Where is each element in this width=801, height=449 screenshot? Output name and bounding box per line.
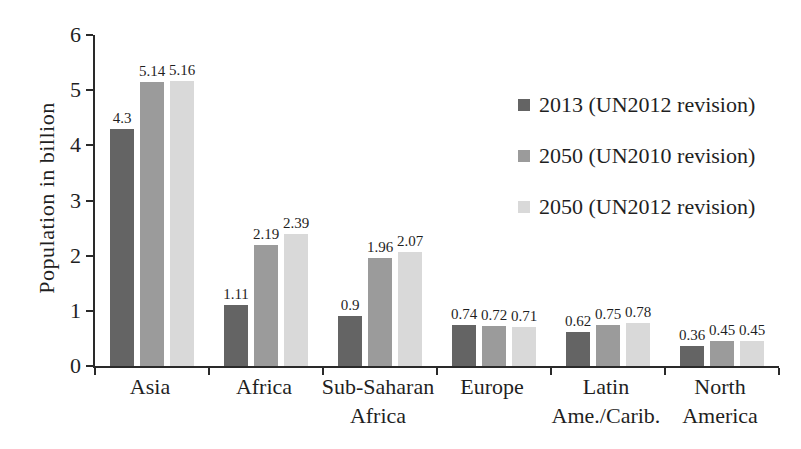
y-tick-label: 2 bbox=[37, 244, 81, 268]
bar bbox=[740, 341, 764, 366]
y-tick-label: 3 bbox=[37, 189, 81, 213]
legend-label: 2013 (UN2012 revision) bbox=[539, 92, 755, 118]
bar-value-label: 0.78 bbox=[608, 304, 668, 321]
category-label: Sub-Saharan Africa bbox=[321, 372, 435, 430]
legend-item: 2013 (UN2012 revision) bbox=[518, 93, 755, 117]
y-axis-tick bbox=[86, 365, 93, 367]
bar bbox=[710, 341, 734, 366]
legend-swatch bbox=[518, 150, 530, 162]
category-label: Africa bbox=[207, 372, 321, 401]
y-tick-label: 0 bbox=[37, 354, 81, 378]
bar bbox=[566, 332, 590, 366]
bar-value-label: 2.07 bbox=[380, 233, 440, 250]
bar bbox=[482, 326, 506, 366]
legend-swatch bbox=[518, 99, 530, 111]
category-label: North America bbox=[663, 372, 777, 430]
category-label: Latin Ame./Carib. bbox=[549, 372, 663, 430]
bar-chart: Population in billion 01234564.35.145.16… bbox=[0, 0, 801, 449]
legend-label: 2050 (UN2010 revision) bbox=[539, 143, 755, 169]
legend-swatch bbox=[518, 201, 530, 213]
y-axis-tick bbox=[86, 310, 93, 312]
y-axis-tick bbox=[86, 89, 93, 91]
y-tick-label: 6 bbox=[37, 23, 81, 47]
bar bbox=[254, 245, 278, 366]
bar bbox=[338, 316, 362, 366]
category-label: Europe bbox=[435, 372, 549, 401]
bar-value-label: 5.16 bbox=[152, 62, 212, 79]
bar bbox=[512, 327, 536, 366]
category-label: Asia bbox=[93, 372, 207, 401]
legend-label: 2050 (UN2012 revision) bbox=[539, 194, 755, 220]
bar-value-label: 2.39 bbox=[266, 215, 326, 232]
bar bbox=[596, 325, 620, 366]
y-tick-label: 5 bbox=[37, 78, 81, 102]
bar bbox=[224, 305, 248, 366]
y-axis-tick bbox=[86, 255, 93, 257]
bar bbox=[170, 81, 194, 366]
x-axis-tick bbox=[778, 368, 780, 375]
legend-item: 2050 (UN2012 revision) bbox=[518, 195, 755, 219]
legend-item: 2050 (UN2010 revision) bbox=[518, 144, 755, 168]
bar-value-label: 0.71 bbox=[494, 308, 554, 325]
y-tick-label: 1 bbox=[37, 299, 81, 323]
bar bbox=[398, 252, 422, 366]
y-axis-tick bbox=[86, 144, 93, 146]
bar bbox=[626, 323, 650, 366]
bar-value-label: 0.45 bbox=[722, 322, 782, 339]
bar bbox=[110, 129, 134, 366]
bar bbox=[140, 82, 164, 366]
y-tick-label: 4 bbox=[37, 133, 81, 157]
bar bbox=[680, 346, 704, 366]
bar bbox=[284, 234, 308, 366]
bar bbox=[368, 258, 392, 366]
y-axis-tick bbox=[86, 34, 93, 36]
bar bbox=[452, 325, 476, 366]
y-axis-tick bbox=[86, 200, 93, 202]
